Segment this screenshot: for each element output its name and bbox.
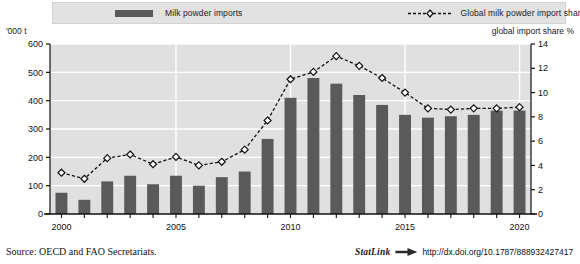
statlink-url[interactable]: http://dx.doi.org/10.1787/888932427417 — [422, 247, 573, 257]
svg-text:500: 500 — [28, 68, 43, 78]
svg-text:200: 200 — [28, 153, 43, 163]
svg-text:0: 0 — [38, 209, 43, 219]
legend-line-label: Global milk powder import share (sd. axi… — [460, 8, 580, 18]
svg-text:400: 400 — [28, 96, 43, 106]
right-axis-unit-label: global import share % — [492, 26, 574, 36]
svg-text:2: 2 — [538, 185, 543, 195]
svg-text:10: 10 — [538, 88, 548, 98]
right-axis-tick-labels: 02468101214 — [538, 39, 548, 219]
figure-milk-powder-imports: Milk powder imports Global milk powder i… — [0, 0, 580, 264]
figure-footer: Source: OECD and FAO Secretariats. StatL… — [0, 246, 580, 264]
statlink-arrow-icon — [395, 248, 417, 256]
left-axis-tick-labels: 0100200300400500600 — [28, 39, 43, 219]
legend-entry-line: Global milk powder import share (sd. axi… — [408, 8, 580, 18]
legend-entry-bar: Milk powder imports — [115, 8, 242, 18]
svg-text:2020: 2020 — [510, 222, 530, 232]
source-note: Source: OECD and FAO Secretariats. — [6, 246, 157, 257]
left-axis-unit-label: '000 t — [6, 26, 27, 36]
svg-text:2010: 2010 — [280, 222, 300, 232]
x-axis-tick-labels: 20002005201020152020 — [51, 222, 529, 232]
svg-text:12: 12 — [538, 63, 548, 73]
svg-text:300: 300 — [28, 124, 43, 134]
legend-line-swatch-icon — [408, 9, 452, 18]
plot-area: 0100200300400500600 02468101214 20002005… — [0, 36, 580, 232]
svg-text:2005: 2005 — [166, 222, 186, 232]
svg-text:600: 600 — [28, 39, 43, 49]
svg-text:4: 4 — [538, 161, 543, 171]
statlink-label: StatLink — [355, 247, 390, 257]
svg-text:8: 8 — [538, 112, 543, 122]
statlink[interactable]: StatLink http://dx.doi.org/10.1787/88893… — [355, 247, 573, 257]
chart-canvas: 0100200300400500600 02468101214 20002005… — [0, 36, 580, 232]
chart-legend: Milk powder imports Global milk powder i… — [52, 2, 566, 24]
svg-text:0: 0 — [538, 209, 543, 219]
legend-bar-swatch-icon — [115, 10, 153, 17]
legend-bar-label: Milk powder imports — [165, 8, 242, 18]
svg-text:100: 100 — [28, 181, 43, 191]
svg-text:6: 6 — [538, 136, 543, 146]
svg-text:2000: 2000 — [51, 222, 71, 232]
svg-text:2015: 2015 — [395, 222, 415, 232]
svg-text:14: 14 — [538, 39, 548, 49]
